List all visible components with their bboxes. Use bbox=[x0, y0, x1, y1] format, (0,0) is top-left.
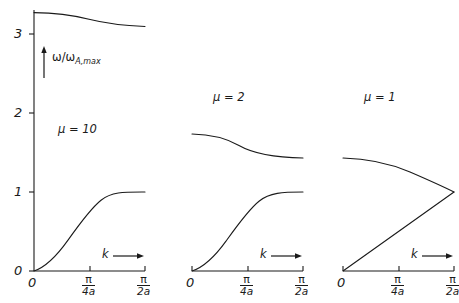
optical-branch-curve bbox=[192, 134, 303, 158]
x-tick-end-denominator: 2a bbox=[446, 285, 459, 297]
k-axis-arrow-icon bbox=[113, 253, 144, 258]
x-tick-mid-numerator: π bbox=[82, 274, 95, 285]
panel-mu-2-annotation: μ = 2 bbox=[213, 92, 245, 104]
panel-mu-2-x-tick-zero: 0 bbox=[186, 276, 194, 289]
k-axis-arrow-icon bbox=[422, 253, 453, 258]
panel-mu-2-x-tick-end: π 2a bbox=[295, 274, 308, 298]
panel-mu-1 bbox=[343, 158, 454, 271]
y-tick-label-0: 0 bbox=[14, 264, 22, 277]
x-tick-mid-numerator: π bbox=[391, 274, 404, 285]
x-tick-mid-denominator: 4a bbox=[82, 285, 95, 297]
y-tick-label-3: 3 bbox=[14, 27, 22, 40]
x-tick-mid-denominator: 4a bbox=[240, 285, 253, 297]
optical-branch-curve bbox=[34, 13, 145, 27]
panel-mu-10 bbox=[29, 10, 145, 271]
k-axis-arrow-icon bbox=[271, 253, 302, 258]
panel-mu-1-x-tick-mid: π 4a bbox=[391, 274, 404, 298]
y-tick-label-1: 1 bbox=[14, 185, 22, 198]
panel-mu-1-k-label: k bbox=[411, 249, 418, 261]
x-tick-end-denominator: 2a bbox=[295, 285, 308, 297]
acoustic-branch-curve bbox=[34, 192, 145, 271]
acoustic-branch-curve bbox=[343, 192, 454, 271]
y-tick-label-2: 2 bbox=[14, 106, 22, 119]
optical-branch-curve bbox=[343, 158, 454, 192]
panel-mu-10-k-label: k bbox=[102, 249, 109, 261]
y-axis-title-subscript: A,max bbox=[75, 57, 101, 66]
x-tick-end-numerator: π bbox=[295, 274, 308, 285]
x-tick-end-numerator: π bbox=[446, 274, 459, 285]
panel-mu-2-x-tick-mid: π 4a bbox=[240, 274, 253, 298]
y-axis-title: ω/ωA,max bbox=[52, 52, 101, 66]
y-axis-arrow-icon bbox=[41, 46, 46, 78]
x-tick-mid-numerator: π bbox=[240, 274, 253, 285]
panel-mu-10-x-tick-zero: 0 bbox=[28, 276, 36, 289]
y-axis-title-main: ω/ω bbox=[52, 50, 75, 64]
panel-mu-10-x-tick-mid: π 4a bbox=[82, 274, 95, 298]
x-tick-end-denominator: 2a bbox=[137, 285, 150, 297]
panel-mu-1-x-tick-end: π 2a bbox=[446, 274, 459, 298]
panel-mu-1-x-tick-zero: 0 bbox=[337, 276, 345, 289]
panel-mu-1-annotation: μ = 1 bbox=[364, 92, 396, 104]
x-tick-end-numerator: π bbox=[137, 274, 150, 285]
panel-mu-2 bbox=[192, 134, 303, 271]
panel-mu-2-k-label: k bbox=[260, 249, 267, 261]
panel-mu-10-x-tick-end: π 2a bbox=[137, 274, 150, 298]
x-tick-mid-denominator: 4a bbox=[391, 285, 404, 297]
acoustic-branch-curve bbox=[192, 192, 303, 271]
panel-mu-10-annotation: μ = 10 bbox=[58, 124, 97, 136]
